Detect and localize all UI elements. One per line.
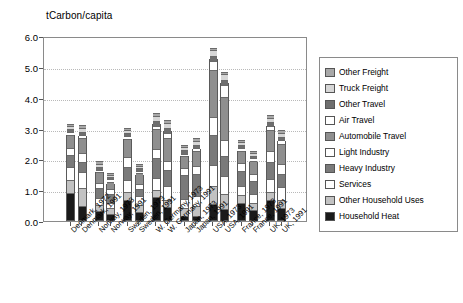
y-axis-tick-mark [39, 99, 43, 100]
bar-segment [124, 157, 131, 167]
bar-segment [79, 153, 86, 162]
legend-swatch [325, 212, 335, 221]
plot-area [43, 37, 307, 222]
bar-segment [124, 180, 131, 191]
bar-segment [153, 178, 160, 190]
bar-segment [250, 181, 257, 194]
bar-segment [164, 161, 171, 171]
bar-segment [221, 156, 228, 176]
bar-segment [67, 155, 74, 166]
bar-segment [238, 195, 245, 203]
y-axis-tick-mark [39, 68, 43, 69]
bar-segment [267, 179, 274, 192]
chart-root: tCarbon/capita 0.01.02.03.04.05.06.0 Den… [0, 0, 463, 303]
legend-item[interactable]: Heavy Industry [325, 160, 452, 176]
legend-swatch [325, 180, 335, 189]
legend-item[interactable]: Household Heat [325, 208, 452, 224]
bar-segment [67, 148, 74, 156]
bar-segment [79, 172, 86, 188]
bar-segment [238, 186, 245, 195]
bar-segment [210, 117, 217, 135]
bar-segment [193, 151, 200, 166]
bar-segment [79, 188, 86, 206]
y-axis-title: tCarbon/capita [46, 10, 112, 21]
y-axis-tick-mark [39, 191, 43, 192]
bar-segment [267, 162, 274, 179]
bar-segment [238, 163, 245, 171]
y-axis-tick-label: 2.0 [2, 155, 38, 166]
bar-segment [67, 180, 74, 193]
y-axis-tick-label: 5.0 [2, 62, 38, 73]
legend: Other FreightTruck FreightOther TravelAi… [319, 57, 458, 232]
bar-segment [278, 164, 285, 174]
bar-segment [164, 138, 171, 161]
legend-item[interactable]: Air Travel [325, 112, 452, 128]
bar-segment [210, 135, 217, 165]
legend-item[interactable]: Other Household Uses [325, 192, 452, 208]
bar-segment [124, 139, 131, 157]
bar-segment [250, 194, 257, 203]
bar-segment [193, 166, 200, 174]
legend-label: Services [339, 179, 371, 189]
legend-item[interactable]: Services [325, 176, 452, 192]
bar-segment [250, 174, 257, 181]
legend-swatch [325, 84, 335, 93]
legend-item[interactable]: Truck Freight [325, 80, 452, 96]
bar-segment [278, 144, 285, 164]
y-axis-tick-label: 1.0 [2, 186, 38, 197]
bar-segment [107, 182, 114, 190]
bar-segment [267, 151, 274, 162]
bar-segment [67, 135, 74, 148]
bar-segment [181, 168, 188, 175]
legend-swatch [325, 68, 335, 77]
legend-swatch [325, 132, 335, 141]
bar-segment [221, 176, 228, 194]
legend-item[interactable]: Automobile Travel [325, 128, 452, 144]
bar-group [44, 38, 306, 221]
y-axis-tick-mark [39, 130, 43, 131]
legend-label: Other Freight [339, 67, 388, 77]
y-axis-tick-label: 0.0 [2, 217, 38, 228]
bar-segment [181, 156, 188, 168]
bar-segment [267, 130, 274, 151]
bar-segment [67, 167, 74, 180]
legend-label: Household Heat [339, 211, 399, 221]
bar-segment [221, 85, 228, 96]
bar-segment [238, 151, 245, 164]
bar-segment [79, 162, 86, 172]
bar[interactable] [66, 135, 75, 221]
y-axis-tick-label: 4.0 [2, 93, 38, 104]
bar-segment [164, 170, 171, 186]
bar-segment [67, 193, 74, 220]
y-axis-tick-mark [39, 160, 43, 161]
legend-swatch [325, 100, 335, 109]
bar-segment [210, 61, 217, 70]
legend-label: Light Industry [339, 147, 389, 157]
y-axis-tick-label: 3.0 [2, 124, 38, 135]
bar-segment [221, 140, 228, 156]
legend-swatch [325, 196, 335, 205]
bar-segment [238, 171, 245, 186]
bar-segment [278, 174, 285, 187]
bar-segment [124, 167, 131, 180]
bar-segment [153, 129, 160, 149]
legend-label: Air Travel [339, 115, 374, 125]
y-axis-tick-mark [39, 222, 43, 223]
y-axis-tick-mark [39, 37, 43, 38]
legend-item[interactable]: Other Travel [325, 96, 452, 112]
legend-swatch [325, 116, 335, 125]
bar[interactable] [78, 136, 87, 221]
bar-segment [210, 70, 217, 117]
legend-item[interactable]: Other Freight [325, 64, 452, 80]
bar-segment [153, 158, 160, 178]
bar-segment [221, 97, 228, 141]
legend-swatch [325, 148, 335, 157]
bar-segment [153, 149, 160, 158]
bar-segment [79, 138, 86, 153]
legend-item[interactable]: Light Industry [325, 144, 452, 160]
bar-segment [250, 161, 257, 174]
bar-segment [96, 172, 103, 182]
y-axis-tick-label: 6.0 [2, 32, 38, 43]
bar-segment [136, 173, 143, 183]
legend-label: Truck Freight [339, 83, 388, 93]
